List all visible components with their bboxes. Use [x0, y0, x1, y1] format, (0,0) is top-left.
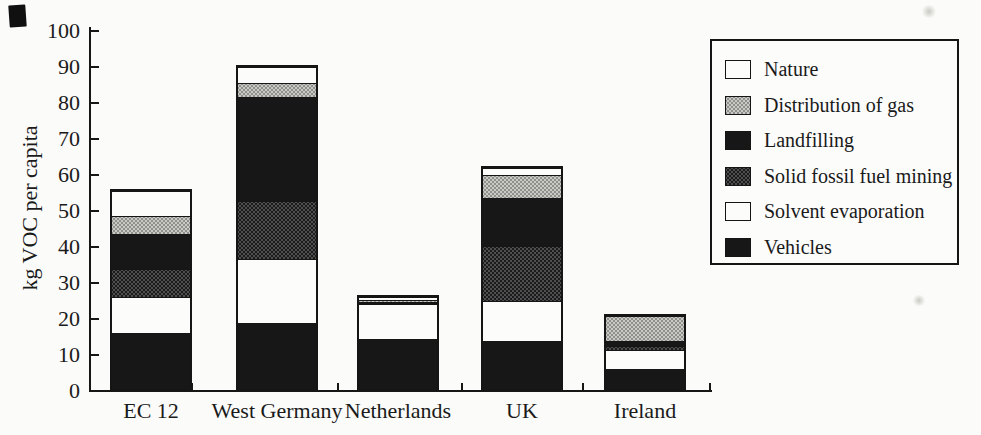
- bar-segment-solvent-evaporation: [606, 350, 684, 369]
- y-tick: [91, 174, 99, 176]
- bar-segment-distribution-of-gas: [238, 83, 316, 97]
- y-tick: [91, 210, 99, 212]
- bar-segment-nature: [359, 297, 437, 300]
- legend-label: Nature: [764, 58, 818, 81]
- legend-swatch-solid-fossil-fuel-mining: [725, 167, 751, 186]
- bar-segment-vehicles: [238, 323, 316, 389]
- legend-label: Landfilling: [764, 129, 854, 152]
- bar-segment-solvent-evaporation: [112, 297, 190, 332]
- legend-item-solvent-evaporation: Solvent evaporation: [712, 194, 957, 230]
- legend-item-solid-fossil-fuel-mining: Solid fossil fuel mining: [712, 159, 957, 195]
- bar-segment-landfilling: [483, 198, 561, 246]
- bar-segment-landfilling: [238, 97, 316, 200]
- figure: kg VOC per capita 0102030405060708090100…: [0, 0, 981, 435]
- legend-item-landfilling: Landfilling: [712, 123, 957, 159]
- legend-label: Distribution of gas: [764, 94, 914, 117]
- bar-segment-solid-fossil-fuel-mining: [112, 269, 190, 297]
- y-tick-label: 10: [58, 342, 80, 368]
- y-tick: [91, 66, 99, 68]
- bar-segment-landfilling: [112, 234, 190, 269]
- legend: NatureDistribution of gasLandfillingSoli…: [710, 39, 959, 265]
- y-tick-label: 30: [58, 270, 80, 296]
- legend-swatch-solvent-evaporation: [725, 202, 751, 221]
- y-tick: [91, 246, 99, 248]
- legend-item-distribution-of-gas: Distribution of gas: [712, 88, 957, 124]
- y-tick-label: 60: [58, 162, 80, 188]
- legend-swatch-landfilling: [725, 131, 751, 150]
- bar-segment-vehicles: [483, 341, 561, 389]
- y-tick-label: 100: [47, 18, 80, 44]
- legend-swatch-distribution-of-gas: [725, 96, 751, 115]
- legend-label: Solid fossil fuel mining: [764, 165, 952, 188]
- bar-segment-solid-fossil-fuel-mining: [238, 201, 316, 260]
- bar-segment-vehicles: [112, 333, 190, 389]
- legend-swatch-vehicles: [725, 238, 751, 257]
- x-tick: [582, 383, 584, 391]
- bar-segment-nature: [238, 67, 316, 83]
- bar-segment-landfilling: [359, 302, 437, 303]
- y-tick: [91, 30, 99, 32]
- bar-segment-solid-fossil-fuel-mining: [606, 346, 684, 349]
- x-category-label: Ireland: [555, 398, 735, 424]
- bar-segment-distribution-of-gas: [112, 216, 190, 234]
- y-tick-label: 20: [58, 306, 80, 332]
- bar-netherlands: [357, 295, 439, 391]
- bar-segment-solid-fossil-fuel-mining: [359, 303, 437, 304]
- legend-swatch-nature: [725, 60, 751, 79]
- x-tick: [337, 383, 339, 391]
- legend-label: Solvent evaporation: [764, 200, 925, 223]
- y-tick: [91, 138, 99, 140]
- y-tick: [91, 282, 99, 284]
- bar-segment-nature: [112, 191, 190, 216]
- y-tick: [91, 102, 99, 104]
- bar-segment-solvent-evaporation: [238, 259, 316, 323]
- y-tick: [91, 354, 99, 356]
- bar-segment-distribution-of-gas: [359, 300, 437, 302]
- bar-segment-distribution-of-gas: [606, 316, 684, 342]
- bar-ec-12: [110, 189, 192, 391]
- bar-segment-nature: [483, 168, 561, 175]
- y-tick-label: 70: [58, 126, 80, 152]
- bar-segment-vehicles: [606, 369, 684, 389]
- legend-label: Vehicles: [764, 236, 832, 259]
- bar-segment-solvent-evaporation: [483, 301, 561, 342]
- bar-west-germany: [236, 65, 318, 391]
- y-tick-label: 90: [58, 54, 80, 80]
- y-tick-label: 80: [58, 90, 80, 116]
- x-tick: [709, 383, 711, 391]
- y-tick-label: 40: [58, 234, 80, 260]
- bar-uk: [481, 166, 563, 391]
- bar-ireland: [604, 314, 686, 391]
- bar-segment-distribution-of-gas: [483, 175, 561, 198]
- bar-segment-solvent-evaporation: [359, 304, 437, 338]
- bar-segment-landfilling: [606, 341, 684, 346]
- y-tick-label: 50: [58, 198, 80, 224]
- bar-segment-vehicles: [359, 339, 437, 389]
- bar-segment-solid-fossil-fuel-mining: [483, 246, 561, 301]
- legend-item-nature: Nature: [712, 52, 957, 88]
- x-tick: [461, 383, 463, 391]
- legend-item-vehicles: Vehicles: [712, 230, 957, 266]
- y-tick: [91, 318, 99, 320]
